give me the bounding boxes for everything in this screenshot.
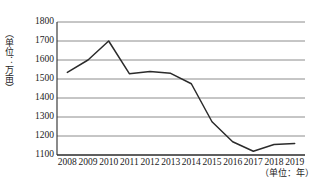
y-axis-tick-labels: 18001700160015001400130012001100 — [20, 0, 54, 184]
x-axis-tick-label: 2015 — [203, 156, 222, 168]
y-axis-tick-label: 1700 — [20, 36, 54, 46]
x-axis-tick-label: 2009 — [79, 156, 98, 168]
y-axis-tick-label: 1400 — [20, 93, 54, 103]
data-series-line — [67, 41, 294, 151]
x-axis-tick-label: 2017 — [244, 156, 263, 168]
y-axis-unit-label: （单位：万亩） — [0, 14, 19, 106]
x-axis-tick-label: 2016 — [223, 156, 242, 168]
gridlines — [57, 22, 305, 155]
y-axis-tick-label: 1300 — [20, 112, 54, 122]
x-axis-tick-label: 2010 — [99, 156, 118, 168]
x-axis-tick-label: 2019 — [285, 156, 304, 168]
line-chart: （单位：万亩） 18001700160015001400130012001100… — [0, 0, 322, 184]
y-axis-tick-label: 1200 — [20, 131, 54, 141]
y-axis-tick-label: 1100 — [20, 150, 54, 160]
x-axis-tick-label: 2013 — [161, 156, 180, 168]
x-axis-tick-label: 2011 — [120, 156, 139, 168]
y-axis-tick-label: 1800 — [20, 17, 54, 27]
x-axis-tick-label: 2014 — [182, 156, 201, 168]
y-axis-tick-label: 1500 — [20, 74, 54, 84]
x-axis-tick-label: 2008 — [58, 156, 77, 168]
plot-area — [57, 22, 305, 155]
x-axis-unit-label: （单位：年） — [260, 168, 314, 179]
x-axis-tick-label: 2018 — [265, 156, 284, 168]
y-axis-tick-label: 1600 — [20, 55, 54, 65]
plot-svg — [57, 22, 305, 155]
x-axis-tick-label: 2012 — [141, 156, 160, 168]
